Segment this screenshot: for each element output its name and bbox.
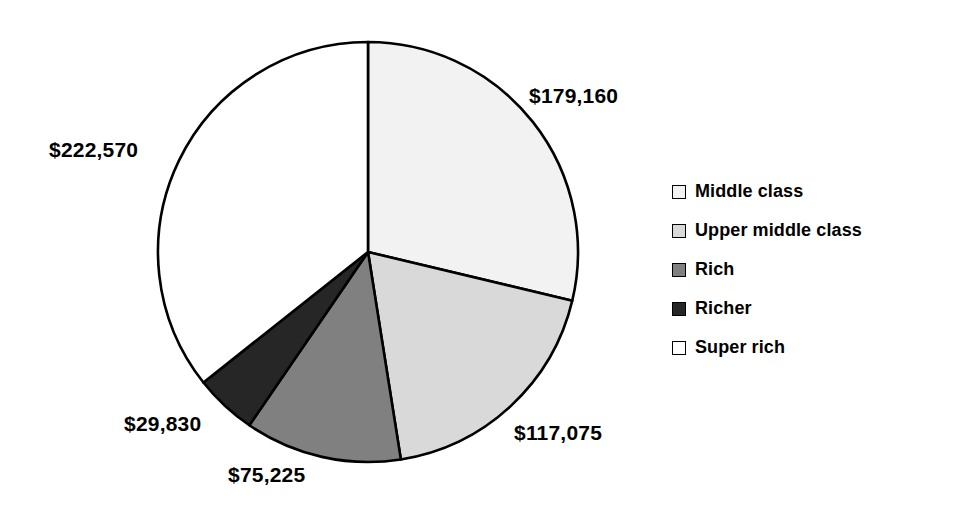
- legend-swatch-richer: [672, 302, 686, 316]
- data-label-upper-middle-class: $117,075: [514, 421, 602, 445]
- data-label-super-rich: $222,570: [49, 138, 138, 162]
- legend-swatch-upper-middle-class: [672, 224, 686, 238]
- pie-chart: $179,160 $117,075 $75,225 $29,830 $222,5…: [0, 0, 956, 523]
- legend-swatch-super-rich: [672, 341, 686, 355]
- data-label-middle-class: $179,160: [529, 84, 618, 108]
- legend-label-upper-middle-class: Upper middle class: [695, 220, 862, 241]
- legend-item-upper-middle-class[interactable]: Upper middle class: [672, 211, 942, 250]
- legend-item-rich[interactable]: Rich: [672, 250, 942, 289]
- legend-label-richer: Richer: [695, 298, 752, 319]
- chart-legend: Middle class Upper middle class Rich Ric…: [672, 172, 942, 367]
- legend-label-middle-class: Middle class: [695, 181, 803, 202]
- legend-item-middle-class[interactable]: Middle class: [672, 172, 942, 211]
- legend-swatch-rich: [672, 263, 686, 277]
- pie-slice-group: [158, 42, 578, 462]
- legend-label-super-rich: Super rich: [695, 337, 785, 358]
- legend-swatch-middle-class: [672, 185, 686, 199]
- legend-item-super-rich[interactable]: Super rich: [672, 328, 942, 367]
- legend-item-richer[interactable]: Richer: [672, 289, 942, 328]
- data-label-rich: $75,225: [228, 463, 305, 487]
- data-label-richer: $29,830: [124, 412, 201, 436]
- legend-label-rich: Rich: [695, 259, 734, 280]
